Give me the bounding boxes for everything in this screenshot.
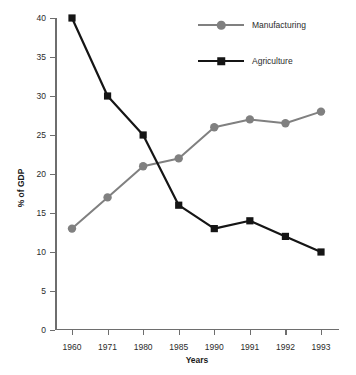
y-tick: 0 xyxy=(50,330,55,331)
x-tick-label: 1980 xyxy=(134,342,153,352)
data-point-square[interactable] xyxy=(282,233,289,240)
y-tick-label: 10 xyxy=(37,247,46,257)
data-point-square[interactable] xyxy=(246,217,253,224)
data-point-circle[interactable] xyxy=(281,119,289,127)
data-point-square[interactable] xyxy=(317,248,324,255)
x-tick-label: 1990 xyxy=(205,342,224,352)
legend-label-agriculture: Agriculture xyxy=(252,56,293,66)
data-point-circle[interactable] xyxy=(68,224,76,232)
data-point-circle[interactable] xyxy=(175,154,183,162)
y-tick-label: 30 xyxy=(37,91,46,101)
x-tick: 1990 xyxy=(214,330,215,335)
data-point-circle[interactable] xyxy=(317,107,325,115)
x-tick-label: 1985 xyxy=(169,342,188,352)
y-tick-label: 15 xyxy=(37,208,46,218)
x-tick-label: 1971 xyxy=(98,342,117,352)
data-point-circle[interactable] xyxy=(246,115,254,123)
data-point-square[interactable] xyxy=(175,202,182,209)
line-chart: % of GDP 0510152025303540 19601971198019… xyxy=(0,0,356,375)
chart-legend: Manufacturing Agriculture xyxy=(198,17,348,89)
x-tick: 1991 xyxy=(250,330,251,335)
y-axis-title: % of GDP xyxy=(16,168,26,207)
data-point-circle[interactable] xyxy=(103,193,111,201)
series-line-manufacturing xyxy=(72,112,321,229)
data-point-square[interactable] xyxy=(211,225,218,232)
x-tick-label: 1991 xyxy=(240,342,259,352)
legend-item-agriculture[interactable]: Agriculture xyxy=(198,53,348,69)
x-tick-label: 1992 xyxy=(276,342,295,352)
x-tick: 1960 xyxy=(72,330,73,335)
x-axis-title: Years xyxy=(55,355,339,365)
legend-swatch-agriculture xyxy=(198,55,244,67)
y-tick-label: 25 xyxy=(37,130,46,140)
data-point-square[interactable] xyxy=(140,131,147,138)
x-tick: 1980 xyxy=(143,330,144,335)
x-tick: 1992 xyxy=(285,330,286,335)
data-point-circle[interactable] xyxy=(210,123,218,131)
data-point-circle[interactable] xyxy=(139,162,147,170)
data-point-square[interactable] xyxy=(104,92,111,99)
circle-marker-icon xyxy=(217,21,226,30)
x-tick-label: 1993 xyxy=(312,342,331,352)
x-tick-label: 1960 xyxy=(63,342,82,352)
data-point-square[interactable] xyxy=(68,14,75,21)
y-tick-label: 20 xyxy=(37,169,46,179)
legend-item-manufacturing[interactable]: Manufacturing xyxy=(198,17,348,33)
x-tick: 1985 xyxy=(179,330,180,335)
legend-label-manufacturing: Manufacturing xyxy=(252,20,306,30)
y-tick-label: 35 xyxy=(37,52,46,62)
square-marker-icon xyxy=(217,57,225,65)
legend-swatch-manufacturing xyxy=(198,19,244,31)
x-tick: 1971 xyxy=(108,330,109,335)
y-tick-label: 0 xyxy=(41,325,46,335)
y-tick-label: 5 xyxy=(41,286,46,296)
y-tick-label: 40 xyxy=(37,13,46,23)
x-tick: 1993 xyxy=(321,330,322,335)
